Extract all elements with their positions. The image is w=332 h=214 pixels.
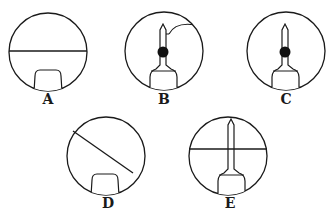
panel-c: C [247,12,325,107]
base-shape-a [34,70,62,92]
panel-a: A [9,13,87,107]
diagram-canvas: A B C D [0,0,332,214]
diagonal-line-d [73,131,133,173]
base-shape-d [91,174,119,196]
label-b: B [158,91,170,107]
pin-b [150,24,177,92]
panel-d: D [67,117,145,211]
dot-b [158,47,169,58]
label-c: C [280,91,291,107]
label-a: A [42,91,55,107]
panel-b: B [125,12,203,107]
dot-c [280,47,291,58]
pin-c [272,24,299,92]
label-e: E [225,195,236,211]
pin-e [218,119,245,196]
label-d: D [102,195,114,211]
panel-e: E [189,117,267,211]
